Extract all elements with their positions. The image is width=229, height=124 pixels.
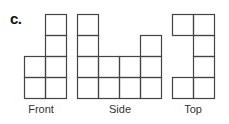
- grid-cell: [78, 15, 99, 36]
- grid-cell: [194, 15, 215, 36]
- grid-cell: [194, 57, 215, 78]
- grid-cell: [78, 36, 99, 57]
- grid-cell: [25, 78, 46, 99]
- front-view-label: Front: [16, 103, 66, 115]
- top-view-label: Top: [168, 103, 218, 115]
- grid-cell: [78, 57, 99, 78]
- grid-cell: [173, 78, 194, 99]
- grid-cell: [99, 78, 120, 99]
- grid-cell: [194, 36, 215, 57]
- side-view-label: Side: [95, 103, 145, 115]
- grid-cell: [46, 36, 67, 57]
- grid-cell: [99, 57, 120, 78]
- grid-cell: [194, 78, 215, 99]
- side-view-grid: [78, 15, 162, 99]
- grid-cell: [25, 57, 46, 78]
- grid-cell: [120, 57, 141, 78]
- grid-cell: [120, 78, 141, 99]
- grid-cell: [46, 15, 67, 36]
- grid-cell: [173, 15, 194, 36]
- grid-cell: [46, 78, 67, 99]
- grid-cell: [141, 78, 162, 99]
- grid-cell: [141, 36, 162, 57]
- top-view-grid: [173, 15, 215, 99]
- front-view-grid: [25, 15, 67, 99]
- grid-cell: [78, 78, 99, 99]
- grid-cell: [46, 57, 67, 78]
- grid-cell: [141, 57, 162, 78]
